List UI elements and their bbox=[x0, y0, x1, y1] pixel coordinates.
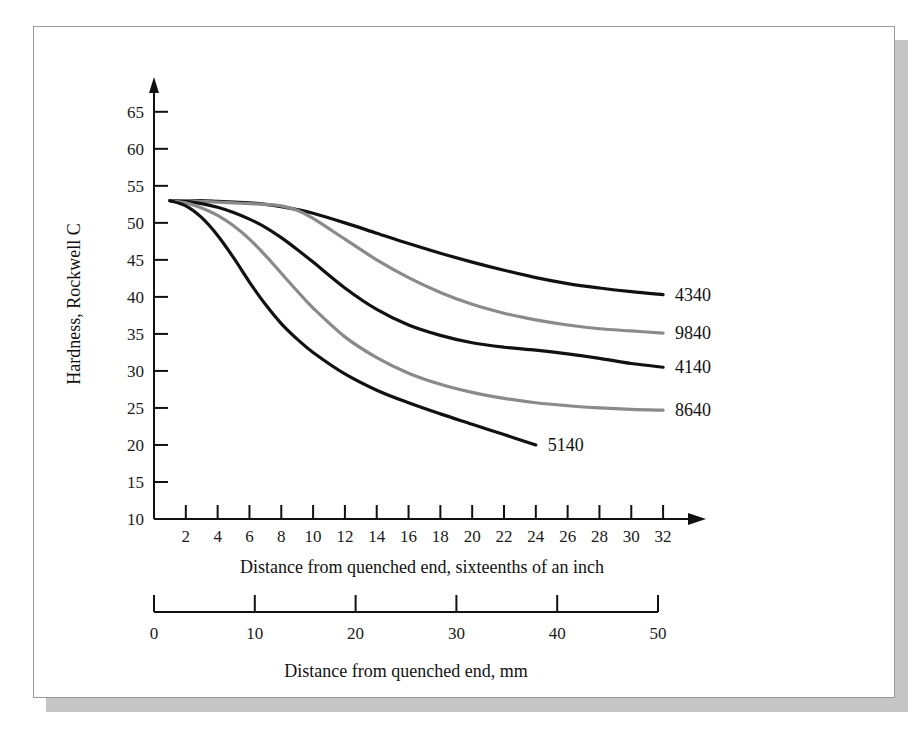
x-tick-label: 8 bbox=[277, 527, 286, 546]
x-tick-label: 30 bbox=[623, 527, 640, 546]
chart-svg: 101520253035404550556065 246810121416182… bbox=[34, 27, 896, 699]
series-line-5140 bbox=[170, 201, 536, 445]
data-curves bbox=[170, 201, 663, 445]
y-tick-label: 55 bbox=[127, 177, 144, 196]
y-tick-label: 60 bbox=[127, 140, 144, 159]
mm-tick-label: 30 bbox=[448, 624, 465, 643]
x-tick-label: 10 bbox=[305, 527, 322, 546]
mm-tick-label: 50 bbox=[650, 624, 667, 643]
x-tick-label: 28 bbox=[591, 527, 608, 546]
series-labels: 43409840414086405140 bbox=[548, 285, 711, 455]
x-tick-label: 4 bbox=[213, 527, 222, 546]
y-tick-label: 35 bbox=[127, 325, 144, 344]
y-tick-label: 10 bbox=[127, 510, 144, 529]
mm-axis-title: Distance from quenched end, mm bbox=[284, 661, 527, 681]
series-label-9840: 9840 bbox=[675, 323, 711, 343]
mm-tick-group: 01020304050 bbox=[150, 595, 667, 643]
series-line-8640 bbox=[170, 201, 663, 411]
x-tick-label: 6 bbox=[245, 527, 254, 546]
x-tick-label: 26 bbox=[559, 527, 576, 546]
y-tick-label: 30 bbox=[127, 362, 144, 381]
x-axis-title: Distance from quenched end, sixteenths o… bbox=[240, 557, 604, 577]
x-tick-group: 2468101214161820222426283032 bbox=[182, 505, 672, 546]
mm-tick-label: 10 bbox=[246, 624, 263, 643]
x-tick-label: 2 bbox=[182, 527, 191, 546]
series-label-4140: 4140 bbox=[675, 357, 711, 377]
series-label-4340: 4340 bbox=[675, 285, 711, 305]
x-axis bbox=[154, 513, 706, 525]
y-tick-label: 65 bbox=[127, 103, 144, 122]
y-tick-group: 101520253035404550556065 bbox=[127, 103, 168, 529]
mm-tick-label: 40 bbox=[549, 624, 566, 643]
chart-area: 101520253035404550556065 246810121416182… bbox=[34, 27, 896, 699]
y-tick-label: 25 bbox=[127, 399, 144, 418]
y-tick-label: 50 bbox=[127, 214, 144, 233]
y-tick-label: 20 bbox=[127, 436, 144, 455]
mm-tick-label: 0 bbox=[150, 624, 159, 643]
y-tick-label: 40 bbox=[127, 288, 144, 307]
y-tick-label: 45 bbox=[127, 251, 144, 270]
mm-scale: 01020304050 Distance from quenched end, … bbox=[150, 595, 667, 681]
x-tick-label: 18 bbox=[432, 527, 449, 546]
series-label-5140: 5140 bbox=[548, 435, 584, 455]
figure-root: 101520253035404550556065 246810121416182… bbox=[0, 0, 923, 751]
mm-tick-label: 20 bbox=[347, 624, 364, 643]
x-tick-label: 22 bbox=[496, 527, 513, 546]
series-label-8640: 8640 bbox=[675, 400, 711, 420]
x-axis-arrow bbox=[688, 513, 706, 525]
y-tick-label: 15 bbox=[127, 473, 144, 492]
x-tick-label: 16 bbox=[400, 527, 417, 546]
series-line-4140 bbox=[170, 201, 663, 368]
x-tick-label: 14 bbox=[368, 527, 386, 546]
series-line-9840 bbox=[170, 201, 663, 334]
y-axis-arrow bbox=[149, 77, 159, 93]
x-tick-label: 24 bbox=[527, 527, 545, 546]
y-axis bbox=[149, 77, 159, 519]
y-axis-title: Hardness, Rockwell C bbox=[64, 223, 84, 384]
x-tick-label: 32 bbox=[655, 527, 672, 546]
x-tick-label: 20 bbox=[464, 527, 481, 546]
x-tick-label: 12 bbox=[336, 527, 353, 546]
figure-panel: 101520253035404550556065 246810121416182… bbox=[33, 26, 895, 698]
